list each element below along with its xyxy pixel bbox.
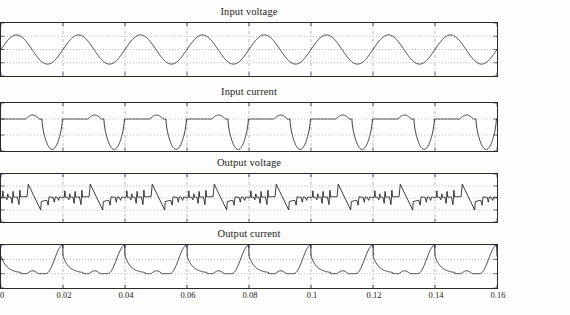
- subplot-axes-3: -400-2000200400: [0, 173, 498, 223]
- x-tick-label: 0.14: [429, 290, 444, 300]
- x-tick-label: 0.1: [307, 290, 318, 300]
- subplot-canvas-1: [1, 23, 497, 76]
- subplot-title-1: Input voltage: [0, 6, 498, 17]
- x-tick-label: 0: [0, 290, 4, 300]
- x-tick-label: 0.04: [119, 290, 134, 300]
- subplot-canvas-4: [1, 245, 497, 288]
- subplot-title-2: Input current: [0, 86, 498, 97]
- x-tick-label: 0.06: [181, 290, 196, 300]
- subplot-title-4: Output current: [0, 228, 498, 239]
- subplot-title-3: Output voltage: [0, 157, 498, 168]
- subplot-axes-4: -200204000.020.040.060.080.10.120.140.16: [0, 244, 498, 289]
- x-tick-label: 0.12: [367, 290, 382, 300]
- waveform-figure: Input voltage-400-2000200400Input curren…: [0, 0, 570, 315]
- x-tick-label: 0.16: [491, 290, 506, 300]
- subplot-canvas-3: [1, 174, 497, 222]
- subplot-axes-1: -400-2000200400: [0, 22, 498, 77]
- x-tick-label: 0.08: [243, 290, 258, 300]
- subplot-axes-2: -40-20020: [0, 102, 498, 152]
- subplot-canvas-2: [1, 103, 497, 151]
- x-tick-label: 0.02: [57, 290, 72, 300]
